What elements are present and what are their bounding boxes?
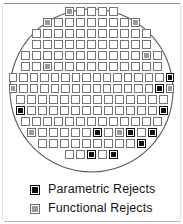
die-pass bbox=[65, 150, 74, 159]
die-pass bbox=[134, 73, 142, 82]
die-pass bbox=[76, 29, 85, 38]
die-pass bbox=[38, 139, 47, 148]
die-pass bbox=[104, 106, 113, 115]
die-pass bbox=[21, 117, 30, 126]
die-pass bbox=[38, 128, 47, 137]
die-pass bbox=[87, 40, 96, 49]
die-row bbox=[8, 29, 175, 40]
die-pass bbox=[65, 62, 74, 71]
die-pass bbox=[98, 29, 107, 38]
filled-square-icon bbox=[30, 185, 40, 195]
die-func bbox=[115, 128, 124, 137]
die-pass bbox=[49, 106, 58, 115]
die-pass bbox=[60, 95, 69, 104]
die-pass bbox=[21, 51, 30, 60]
die-pass bbox=[134, 84, 142, 93]
die-row bbox=[8, 73, 175, 84]
die-pass bbox=[148, 106, 157, 115]
die-row bbox=[8, 106, 175, 117]
die-pass bbox=[49, 95, 58, 104]
die-row bbox=[8, 62, 175, 73]
die-pass bbox=[60, 139, 69, 148]
die-pass bbox=[51, 73, 59, 82]
die-pass bbox=[43, 51, 52, 60]
die-pass bbox=[9, 73, 17, 82]
die-pass bbox=[153, 51, 162, 60]
die-row bbox=[8, 18, 175, 29]
die-pass bbox=[93, 73, 101, 82]
die-pass bbox=[131, 117, 140, 126]
die-pass bbox=[103, 84, 111, 93]
die-pass bbox=[126, 139, 135, 148]
die-param bbox=[126, 128, 135, 137]
die-pass bbox=[120, 18, 129, 27]
die-pass bbox=[98, 51, 107, 60]
die-pass bbox=[38, 95, 47, 104]
die-pass bbox=[65, 29, 74, 38]
die-pass bbox=[60, 128, 69, 137]
legend-item-functional: Functional Rejects bbox=[8, 199, 178, 218]
die-pass bbox=[32, 51, 41, 60]
legend-item-parametric: Parametric Rejects bbox=[8, 180, 178, 199]
die-row bbox=[8, 40, 175, 51]
die-pass bbox=[32, 117, 41, 126]
die-pass bbox=[124, 73, 132, 82]
die-pass bbox=[98, 7, 107, 16]
die-pass bbox=[72, 84, 80, 93]
die-pass bbox=[109, 40, 118, 49]
die-pass bbox=[71, 95, 80, 104]
die-pass bbox=[120, 29, 129, 38]
die-pass bbox=[109, 7, 118, 16]
die-pass bbox=[87, 7, 96, 16]
die-pass bbox=[109, 29, 118, 38]
die-pass bbox=[87, 117, 96, 126]
die-pass bbox=[76, 117, 85, 126]
die-row bbox=[8, 117, 175, 128]
die-pass bbox=[98, 62, 107, 71]
die-pass bbox=[54, 18, 63, 27]
die-param bbox=[155, 84, 163, 93]
die-pass bbox=[104, 95, 113, 104]
die-pass bbox=[131, 62, 140, 71]
die-pass bbox=[153, 117, 162, 126]
die-func bbox=[142, 51, 151, 60]
die-pass bbox=[145, 73, 153, 82]
die-pass bbox=[76, 51, 85, 60]
die-param bbox=[93, 128, 102, 137]
die-pass bbox=[98, 117, 107, 126]
die-pass bbox=[115, 95, 124, 104]
die-row bbox=[8, 95, 175, 106]
left-edge-line bbox=[2, 3, 3, 221]
die-pass bbox=[87, 29, 96, 38]
die-pass bbox=[49, 128, 58, 137]
die-pass bbox=[76, 40, 85, 49]
die-func bbox=[9, 84, 17, 93]
die-pass bbox=[54, 117, 63, 126]
die-pass bbox=[137, 128, 146, 137]
gray-square-icon bbox=[30, 204, 40, 214]
die-param bbox=[159, 106, 168, 115]
die-pass bbox=[142, 62, 151, 71]
die-pass bbox=[93, 139, 102, 148]
die-pass bbox=[61, 73, 69, 82]
die-pass bbox=[76, 62, 85, 71]
die-pass bbox=[49, 139, 58, 148]
die-pass bbox=[82, 139, 91, 148]
die-pass bbox=[131, 40, 140, 49]
die-param bbox=[166, 73, 174, 82]
die-pass bbox=[109, 18, 118, 27]
die-param bbox=[87, 150, 96, 159]
die-pass bbox=[87, 62, 96, 71]
die-param bbox=[148, 128, 157, 137]
die-pass bbox=[51, 84, 59, 93]
die-pass bbox=[120, 51, 129, 60]
die-pass bbox=[43, 29, 52, 38]
die-pass bbox=[155, 73, 163, 82]
legend: Parametric Rejects Functional Rejects bbox=[8, 180, 178, 218]
die-pass bbox=[65, 51, 74, 60]
die-pass bbox=[54, 29, 63, 38]
die-func bbox=[43, 18, 52, 27]
right-edge-line bbox=[180, 3, 181, 221]
die-pass bbox=[104, 128, 113, 137]
die-pass bbox=[87, 18, 96, 27]
